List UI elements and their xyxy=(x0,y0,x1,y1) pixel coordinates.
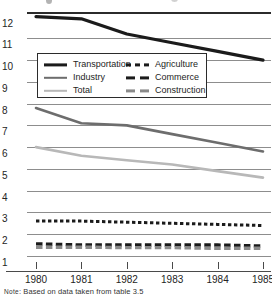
series-line-agriculture xyxy=(36,221,263,225)
legend-label: Total xyxy=(73,85,92,96)
note-prefix: Note xyxy=(4,288,19,295)
line-chart: 121110987654321 TransportationIndustryTo… xyxy=(0,0,272,299)
x-tick-label-1983: 1983 xyxy=(161,274,183,285)
y-tick-label-4: 4 xyxy=(2,193,24,203)
x-tick-label-1980: 1980 xyxy=(25,274,47,285)
legend-swatch-icon xyxy=(126,72,149,83)
y-tick-label-2: 2 xyxy=(2,236,24,246)
legend-column-left: TransportationIndustryTotal xyxy=(44,58,131,97)
legend-item-industry: Industry xyxy=(44,71,131,84)
legend-column-right: AgricultureCommerceConstruction xyxy=(126,58,206,97)
legend-label: Transportation xyxy=(73,59,131,70)
legend-label: Construction xyxy=(155,85,206,96)
legend-item-agriculture: Agriculture xyxy=(126,58,206,71)
x-tick-1981 xyxy=(81,262,82,269)
legend-item-commerce: Commerce xyxy=(126,71,206,84)
legend-swatch-icon xyxy=(44,59,67,70)
y-tick-label-12: 12 xyxy=(2,19,24,29)
note-text: : Based on data taken from table 3.5 xyxy=(19,287,144,296)
legend-swatch-icon xyxy=(44,85,67,96)
chart-note: Note: Based on data taken from table 3.5 xyxy=(4,287,143,296)
legend-label: Industry xyxy=(73,72,105,83)
x-tick-label-1985: 1985 xyxy=(252,274,272,285)
legend-item-total: Total xyxy=(44,84,131,97)
y-tick-label-11: 11 xyxy=(2,40,24,50)
y-tick-label-10: 10 xyxy=(2,62,24,72)
legend-swatch-icon xyxy=(126,85,149,96)
y-tick-label-8: 8 xyxy=(2,106,24,116)
x-tick-label-1981: 1981 xyxy=(70,274,92,285)
x-tick-label-1982: 1982 xyxy=(116,274,138,285)
x-tick-label-1984: 1984 xyxy=(206,274,228,285)
y-tick-label-3: 3 xyxy=(2,214,24,224)
x-axis-line xyxy=(6,271,271,272)
series-line-construction xyxy=(36,247,263,248)
page-scan-artifact xyxy=(0,0,272,9)
legend-swatch-icon xyxy=(44,72,67,83)
legend-swatch-icon xyxy=(126,59,149,70)
y-tick-label-6: 6 xyxy=(2,149,24,159)
series-line-total xyxy=(36,147,263,178)
x-tick-1980 xyxy=(36,262,37,269)
plot-area: 121110987654321 xyxy=(27,9,271,262)
series-line-industry xyxy=(36,108,263,152)
legend-item-transportation: Transportation xyxy=(44,58,131,71)
y-tick-label-1: 1 xyxy=(2,258,24,268)
legend-label: Commerce xyxy=(155,72,199,83)
legend-item-construction: Construction xyxy=(126,84,206,97)
x-tick-1985 xyxy=(263,262,264,269)
x-tick-1984 xyxy=(218,262,219,269)
series-lines xyxy=(27,9,271,262)
y-tick-label-9: 9 xyxy=(2,84,24,94)
y-tick-label-7: 7 xyxy=(2,127,24,137)
y-tick-label-5: 5 xyxy=(2,171,24,181)
x-tick-1982 xyxy=(127,262,128,269)
legend: TransportationIndustryTotal AgricultureC… xyxy=(37,53,207,98)
legend-label: Agriculture xyxy=(155,59,198,70)
x-tick-1983 xyxy=(172,262,173,269)
